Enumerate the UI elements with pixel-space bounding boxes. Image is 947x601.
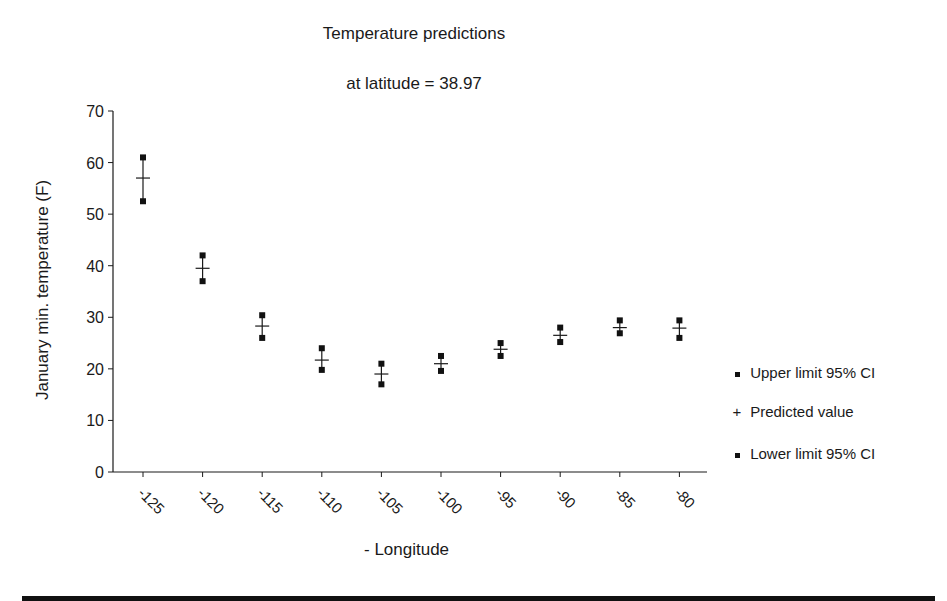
- chart-plot-area: 010203040506070-125-120-115-110-105-100-…: [0, 0, 947, 601]
- y-tick-label: 50: [86, 206, 104, 223]
- y-tick-label: 70: [86, 103, 104, 120]
- lower-ci-marker: [676, 335, 682, 341]
- upper-ci-marker: [438, 353, 444, 359]
- bottom-rule: [22, 596, 935, 601]
- x-tick-label: -80: [671, 484, 698, 511]
- lower-ci-marker: [438, 368, 444, 374]
- x-tick-label: -110: [314, 484, 346, 516]
- upper-ci-marker: [259, 312, 265, 318]
- y-tick-label: 20: [86, 361, 104, 378]
- lower-ci-marker: [319, 367, 325, 373]
- y-tick-label: 60: [86, 155, 104, 172]
- lower-ci-marker: [200, 278, 206, 284]
- upper-ci-marker: [498, 340, 504, 346]
- legend-label: Predicted value: [750, 403, 853, 420]
- upper-ci-marker: [557, 325, 563, 331]
- x-tick-label: -115: [254, 484, 286, 516]
- upper-ci-marker: [617, 317, 623, 323]
- legend-item-predicted: + Predicted value: [728, 403, 854, 420]
- upper-ci-marker: [140, 154, 146, 160]
- x-tick-label: -120: [194, 484, 227, 517]
- lower-ci-marker: [140, 198, 146, 204]
- lower-ci-marker: [617, 330, 623, 336]
- square-marker-icon: [728, 445, 746, 462]
- x-tick-label: -100: [433, 484, 466, 517]
- legend-item-upper: Upper limit 95% CI: [728, 364, 875, 381]
- upper-ci-marker: [319, 345, 325, 351]
- y-tick-label: 30: [86, 309, 104, 326]
- legend-item-lower: Lower limit 95% CI: [728, 445, 875, 462]
- x-tick-label: -85: [612, 484, 639, 511]
- lower-ci-marker: [498, 353, 504, 359]
- x-tick-label: -105: [373, 484, 406, 517]
- lower-ci-marker: [378, 381, 384, 387]
- lower-ci-marker: [557, 339, 563, 345]
- upper-ci-marker: [378, 361, 384, 367]
- upper-ci-marker: [676, 317, 682, 323]
- lower-ci-marker: [259, 335, 265, 341]
- y-tick-label: 10: [86, 412, 104, 429]
- x-tick-label: -95: [492, 484, 519, 511]
- y-tick-label: 40: [86, 258, 104, 275]
- y-axis-label: January min. temperature (F): [33, 180, 53, 400]
- legend-label: Lower limit 95% CI: [750, 445, 875, 462]
- x-tick-label: -125: [135, 484, 168, 517]
- y-tick-label: 0: [95, 464, 104, 481]
- plus-marker-icon: +: [728, 403, 746, 420]
- legend-label: Upper limit 95% CI: [750, 364, 875, 381]
- x-axis-label: - Longitude: [364, 540, 449, 560]
- square-marker-icon: [728, 364, 746, 381]
- upper-ci-marker: [200, 252, 206, 258]
- x-tick-label: -90: [552, 484, 579, 511]
